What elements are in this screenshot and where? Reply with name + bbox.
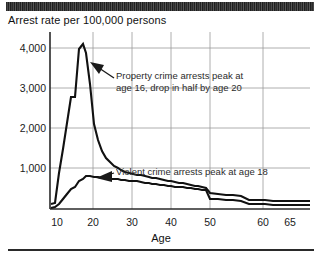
xtick-label-30: 30 xyxy=(119,216,145,228)
annotation-property-crime-line1: Property crime arrests peak at xyxy=(116,70,243,82)
xtick-label-60: 60 xyxy=(250,216,276,228)
ytick-label-4000: 4,000 xyxy=(6,42,46,54)
xtick-label-65: 65 xyxy=(277,216,303,228)
annotation-violent-crime: Violent crime arrests peak at age 18 xyxy=(116,166,268,178)
figure-container: Arrest rate per 100,000 persons xyxy=(0,0,322,260)
annotation-property-crime-line2: age 16, drop in half by age 20 xyxy=(116,82,243,94)
series-violent-crime xyxy=(51,176,310,208)
xtick-label-50: 50 xyxy=(197,216,223,228)
x-axis-title: Age xyxy=(0,232,322,244)
xtick-label-10: 10 xyxy=(44,216,70,228)
annotation-arrow-property xyxy=(90,62,114,78)
annotation-property-crime: Property crime arrests peak at age 16, d… xyxy=(116,70,243,93)
xtick-label-20: 20 xyxy=(80,216,106,228)
annotation-violent-crime-line1: Violent crime arrests peak at age 18 xyxy=(116,166,268,178)
xtick-label-40: 40 xyxy=(158,216,184,228)
ytick-label-1000: 1,000 xyxy=(6,162,46,174)
bottom-divider-rule xyxy=(8,249,314,251)
ytick-label-2000: 2,000 xyxy=(6,122,46,134)
horizontal-gridlines xyxy=(50,48,310,168)
series-property-crime xyxy=(51,44,310,204)
ytick-label-3000: 3,000 xyxy=(6,82,46,94)
